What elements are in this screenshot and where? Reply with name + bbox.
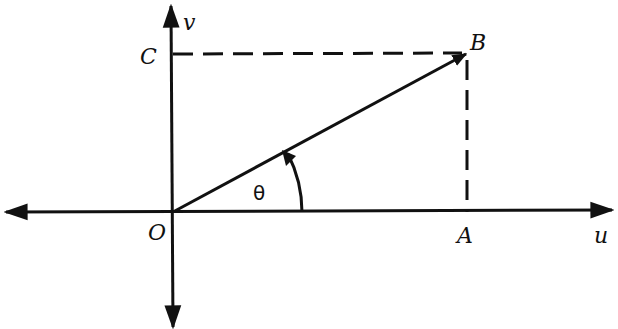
label-angle-theta: θ: [253, 181, 265, 205]
label-point-a: A: [455, 223, 473, 248]
vector-ob: [173, 54, 466, 212]
label-point-b: B: [469, 30, 486, 55]
diagram-svg: v C B O A u θ: [0, 0, 618, 329]
label-point-c: C: [140, 44, 157, 69]
label-v-axis: v: [183, 10, 196, 35]
u-axis: [6, 210, 612, 212]
vector-diagram: v C B O A u θ: [0, 0, 618, 329]
angle-arc: [288, 154, 302, 212]
v-axis: [171, 6, 173, 327]
label-origin-o: O: [148, 220, 166, 245]
dashed-line-c-b: [173, 53, 462, 54]
label-u-axis: u: [594, 223, 608, 248]
